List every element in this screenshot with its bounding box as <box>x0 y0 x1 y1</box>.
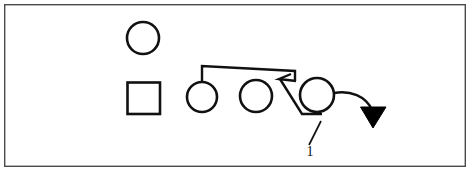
legend-circle <box>127 22 159 54</box>
node-circle-left <box>187 82 217 112</box>
node-circle-middle <box>240 80 272 112</box>
diagram-svg: 1 <box>0 0 471 178</box>
figure-border <box>5 5 466 167</box>
callout-label-1: 1 <box>307 144 314 159</box>
figure-canvas: 1 <box>0 0 471 178</box>
legend-square <box>128 83 161 115</box>
node-circle-right <box>300 78 334 112</box>
